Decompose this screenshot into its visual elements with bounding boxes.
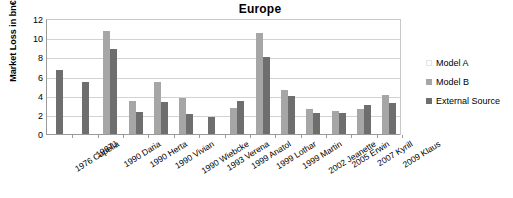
legend-swatch-icon — [426, 79, 432, 85]
bar-group — [98, 20, 123, 134]
plot-area: 024681012 — [46, 19, 401, 135]
bar — [382, 95, 389, 134]
y-tick-label: 12 — [21, 15, 43, 25]
bar-group — [351, 20, 376, 134]
bar-group — [148, 20, 173, 134]
legend-label: External Source — [436, 96, 500, 106]
x-tick-label: 1987J — [94, 139, 119, 160]
bar — [56, 70, 63, 134]
bar-group — [225, 20, 250, 134]
bar — [129, 101, 136, 134]
bar — [281, 90, 288, 134]
bar — [136, 112, 143, 134]
bar — [339, 113, 346, 134]
x-tick-mark — [148, 135, 149, 138]
bar — [389, 103, 396, 134]
legend-swatch-icon — [426, 60, 432, 66]
bar — [208, 117, 215, 134]
bar-group — [199, 20, 224, 134]
y-tick-label: 2 — [21, 111, 43, 121]
bar-groups — [47, 20, 400, 134]
y-tick-label: 0 — [21, 130, 43, 140]
bar-group — [174, 20, 199, 134]
bar — [154, 82, 161, 134]
bar — [313, 113, 320, 134]
x-tick-mark — [199, 135, 200, 138]
x-tick-mark — [225, 135, 226, 138]
legend-swatch-icon — [426, 98, 432, 104]
bar-group — [72, 20, 97, 134]
x-tick-mark — [301, 135, 302, 138]
x-tick-mark — [72, 135, 73, 138]
y-tick-label: 8 — [21, 53, 43, 63]
y-axis-label: Market Loss in bn€ — [8, 0, 18, 96]
bar-group — [301, 20, 326, 134]
bar — [364, 105, 371, 134]
chart-figure: Europe Market Loss in bn€ 024681012 1976… — [0, 0, 513, 198]
x-tick-mark — [402, 135, 403, 138]
legend-item[interactable]: External Source — [426, 96, 512, 106]
bar — [237, 101, 244, 134]
legend-item[interactable]: Model B — [426, 77, 512, 87]
bar — [161, 102, 168, 134]
x-tick-mark — [351, 135, 352, 138]
bar — [332, 111, 339, 134]
chart-legend: Model AModel BExternal Source — [426, 58, 512, 115]
x-tick-mark — [326, 135, 327, 138]
y-tick-label: 6 — [21, 73, 43, 83]
bar — [263, 57, 270, 134]
x-tick-mark — [250, 135, 251, 138]
legend-item[interactable]: Model A — [426, 58, 512, 68]
bar — [288, 96, 295, 134]
bar — [306, 109, 313, 134]
x-tick-mark — [98, 135, 99, 138]
bar-group — [250, 20, 275, 134]
bar — [186, 114, 193, 134]
x-tick-mark — [123, 135, 124, 138]
bar-group — [377, 20, 402, 134]
bar — [357, 109, 364, 134]
x-axis-line — [47, 134, 400, 135]
bar-group — [275, 20, 300, 134]
legend-label: Model B — [436, 77, 469, 87]
x-tick-mark — [275, 135, 276, 138]
bar — [179, 98, 186, 134]
bar — [110, 49, 117, 134]
bar — [230, 108, 237, 134]
chart-title: Europe — [150, 2, 370, 16]
bar — [103, 31, 110, 134]
bar — [82, 82, 89, 134]
x-tick-mark — [377, 135, 378, 138]
y-tick-label: 4 — [21, 92, 43, 102]
legend-label: Model A — [436, 58, 469, 68]
bar-group — [123, 20, 148, 134]
x-tick-mark — [174, 135, 175, 138]
bar-group — [326, 20, 351, 134]
bar-group — [47, 20, 72, 134]
y-tick-label: 10 — [21, 34, 43, 44]
bar — [256, 33, 263, 134]
